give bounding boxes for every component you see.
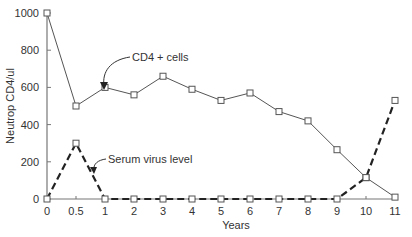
data-point-marker <box>73 140 79 146</box>
x-tick-label: 8 <box>305 205 311 217</box>
data-point-marker <box>247 90 253 96</box>
y-tick-label: 0 <box>33 193 39 205</box>
x-tick-label: 5 <box>218 205 224 217</box>
annotations: CD4 + cellsSerum virus level <box>90 51 192 174</box>
data-point-marker <box>44 10 50 16</box>
data-point-marker <box>160 73 166 79</box>
y-tick-label: 600 <box>21 81 39 93</box>
y-tick-label: 200 <box>21 156 39 168</box>
data-point-marker <box>363 175 369 181</box>
x-tick-label: 9 <box>334 205 340 217</box>
data-point-marker <box>276 196 282 202</box>
chart: 0200400600800100000.51234567891011 CD4 +… <box>0 0 412 237</box>
data-point-marker <box>392 194 398 200</box>
y-tick-label: 800 <box>21 44 39 56</box>
y-tick-label: 400 <box>21 119 39 131</box>
serum-virus-line <box>47 100 395 199</box>
data-point-marker <box>218 196 224 202</box>
x-tick-label: 10 <box>360 205 372 217</box>
axes: 0200400600800100000.51234567891011 <box>15 7 401 217</box>
data-point-marker <box>334 147 340 153</box>
cd4-line <box>47 13 395 197</box>
data-point-marker <box>276 109 282 115</box>
data-point-marker <box>189 86 195 92</box>
x-tick-label: 11 <box>389 205 400 217</box>
data-point-marker <box>218 97 224 103</box>
x-tick-label: 7 <box>276 205 282 217</box>
y-tick-label: 1000 <box>15 7 39 19</box>
virus-annotation: Serum virus level <box>108 153 192 165</box>
x-tick-label: 2 <box>131 205 137 217</box>
series-layer <box>44 10 398 202</box>
data-point-marker <box>160 196 166 202</box>
data-point-marker <box>392 97 398 103</box>
data-point-marker <box>305 118 311 124</box>
data-point-marker <box>189 196 195 202</box>
x-tick-label: 1 <box>102 205 108 217</box>
x-tick-label: 0 <box>44 205 50 217</box>
data-point-marker <box>131 196 137 202</box>
x-tick-label: 3 <box>160 205 166 217</box>
data-point-marker <box>131 92 137 98</box>
x-tick-label: 6 <box>247 205 253 217</box>
x-tick-label: 0.5 <box>68 205 83 217</box>
data-point-marker <box>73 103 79 109</box>
data-point-marker <box>305 196 311 202</box>
y-axis-label: Neutrop CD4/ul <box>4 68 16 144</box>
data-point-marker <box>334 196 340 202</box>
x-tick-label: 4 <box>189 205 195 217</box>
data-point-marker <box>247 196 253 202</box>
data-point-marker <box>44 196 50 202</box>
cd4-annotation: CD4 + cells <box>132 51 189 63</box>
arrow-icon <box>104 57 130 86</box>
data-point-marker <box>102 196 108 202</box>
x-axis-label: Years <box>222 219 250 231</box>
